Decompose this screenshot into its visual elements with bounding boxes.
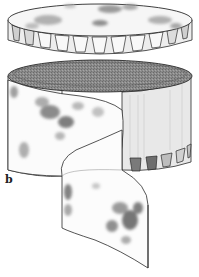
panel-label: b	[5, 174, 13, 186]
lid	[8, 4, 192, 54]
cylinder-strip-drawing	[0, 0, 199, 277]
illustration: b	[0, 0, 199, 277]
